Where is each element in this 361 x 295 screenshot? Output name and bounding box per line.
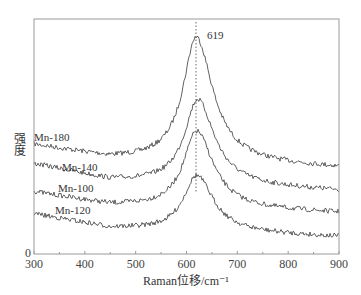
x-tick-label: 900: [330, 257, 348, 271]
x-tick-label: 700: [228, 257, 246, 271]
peak-annotation: 619: [207, 29, 224, 41]
x-tick-label: 400: [76, 257, 94, 271]
y-axis-title-char-2: 度: [14, 143, 26, 158]
curve-label-mn-100: Mn-100: [58, 182, 94, 194]
y-axis-title: 强 度: [14, 132, 26, 158]
spectrum-mn-140: [34, 98, 339, 191]
raman-chart: 619 300400500600700800900 0 强 度 Raman位移/…: [0, 0, 361, 295]
curve-label-mn-180: Mn-180: [34, 131, 70, 143]
x-tick-label: 800: [279, 257, 297, 271]
curve-label-mn-120: Mn-120: [55, 204, 91, 216]
curve-label-mn-140: Mn-140: [62, 161, 98, 173]
x-tick-label: 600: [178, 257, 196, 271]
x-tick-label: 500: [127, 257, 145, 271]
spectrum-mn-180: [34, 36, 339, 167]
x-axis-title: Raman位移/cm⁻¹: [143, 273, 229, 288]
y-zero-label: 0: [25, 246, 31, 260]
